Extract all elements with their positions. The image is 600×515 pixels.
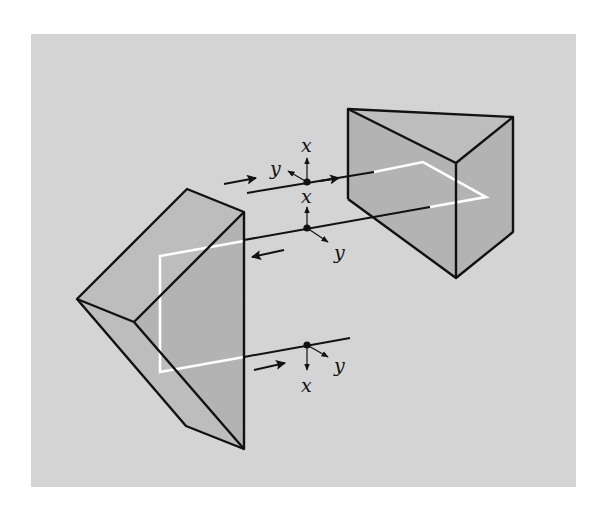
top-x-label: x: [301, 134, 312, 156]
top-y-label: y: [269, 157, 281, 179]
bottom-y-label: y: [333, 354, 345, 376]
prism-diagram: x y x y x y: [0, 0, 600, 515]
bottom-x-label: x: [301, 374, 312, 396]
middle-x-label: x: [301, 185, 312, 207]
background-panel: [31, 34, 576, 487]
middle-y-label: y: [333, 241, 345, 263]
